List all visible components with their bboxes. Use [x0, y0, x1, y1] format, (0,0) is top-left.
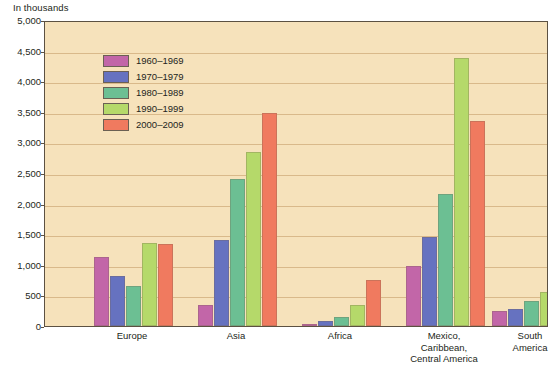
immigration-bar-chart: In thousands 05001,0001,5002,0002,5003,0…: [0, 0, 558, 371]
legend-item[interactable]: 1970–1979: [103, 69, 184, 84]
x-axis-tick-label: Africa: [280, 330, 400, 342]
bar[interactable]: [524, 301, 539, 326]
bar[interactable]: [508, 309, 523, 326]
legend-swatch-icon: [103, 55, 129, 67]
bar-group: [492, 22, 548, 326]
y-axis-tick-label: 2,500: [0, 169, 41, 179]
bar[interactable]: [334, 317, 349, 326]
bar-group: [198, 22, 277, 326]
y-axis-tick-label: 4,500: [0, 47, 41, 57]
bar[interactable]: [262, 113, 277, 326]
bar[interactable]: [422, 237, 437, 326]
y-axis-tick-label: 3,000: [0, 138, 41, 148]
bar[interactable]: [350, 305, 365, 326]
bar[interactable]: [366, 280, 381, 327]
y-axis-tick-label: 2,000: [0, 200, 41, 210]
legend-label: 1960–1969: [136, 55, 184, 66]
legend-swatch-icon: [103, 119, 129, 131]
bar-group: [302, 22, 381, 326]
legend-item[interactable]: 1980–1989: [103, 85, 184, 100]
bar[interactable]: [158, 244, 173, 326]
plot-area: 1960–19691970–19791980–19891990–19992000…: [44, 21, 548, 327]
y-axis-tick-label: 1,000: [0, 261, 41, 271]
y-axis-tick-label: 0: [0, 322, 41, 332]
legend-item[interactable]: 2000–2009: [103, 117, 184, 132]
legend-swatch-icon: [103, 71, 129, 83]
bar[interactable]: [142, 243, 157, 326]
bar[interactable]: [540, 292, 548, 326]
bar[interactable]: [302, 324, 317, 326]
y-axis-tick-mark: [41, 327, 44, 328]
x-axis-tick-label: Asia: [176, 330, 296, 342]
bar[interactable]: [406, 266, 421, 326]
x-axis-tick-label: South America: [470, 330, 558, 353]
y-axis-tick-label: 3,500: [0, 108, 41, 118]
legend: 1960–19691970–19791980–19891990–19992000…: [101, 51, 188, 135]
legend-item[interactable]: 1960–1969: [103, 53, 184, 68]
bar[interactable]: [94, 257, 109, 326]
bar[interactable]: [318, 321, 333, 326]
bar[interactable]: [454, 58, 469, 326]
bar[interactable]: [492, 311, 507, 326]
y-axis-tick-label: 4,000: [0, 77, 41, 87]
bar[interactable]: [246, 152, 261, 326]
legend-label: 1990–1999: [136, 103, 184, 114]
bar[interactable]: [198, 305, 213, 326]
y-axis-tick-label: 500: [0, 291, 41, 301]
legend-swatch-icon: [103, 103, 129, 115]
y-axis-unit-label: In thousands: [13, 2, 69, 13]
bar[interactable]: [470, 121, 485, 326]
legend-label: 1980–1989: [136, 87, 184, 98]
legend-label: 2000–2009: [136, 119, 184, 130]
y-axis-tick-label: 5,000: [0, 16, 41, 26]
bar[interactable]: [214, 240, 229, 326]
bar[interactable]: [438, 194, 453, 326]
bar[interactable]: [110, 276, 125, 326]
legend-swatch-icon: [103, 87, 129, 99]
bar-group: [406, 22, 485, 326]
legend-item[interactable]: 1990–1999: [103, 101, 184, 116]
bar[interactable]: [126, 286, 141, 326]
bar[interactable]: [230, 179, 245, 326]
y-axis-tick-label: 1,500: [0, 230, 41, 240]
x-axis-tick-label: Europe: [72, 330, 192, 342]
legend-label: 1970–1979: [136, 71, 184, 82]
